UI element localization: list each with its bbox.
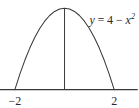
equation-equals: = xyxy=(98,13,105,27)
tick-label-minus-2: −2 xyxy=(3,95,27,107)
equation-minus: − xyxy=(116,13,123,27)
equation-annotation: y = 4 − x2 xyxy=(89,14,135,26)
tick-label-2: 2 xyxy=(106,95,122,107)
equation-exponent: 2 xyxy=(131,12,135,21)
parabola-figure: y = 4 − x2 −2 2 xyxy=(0,0,139,108)
